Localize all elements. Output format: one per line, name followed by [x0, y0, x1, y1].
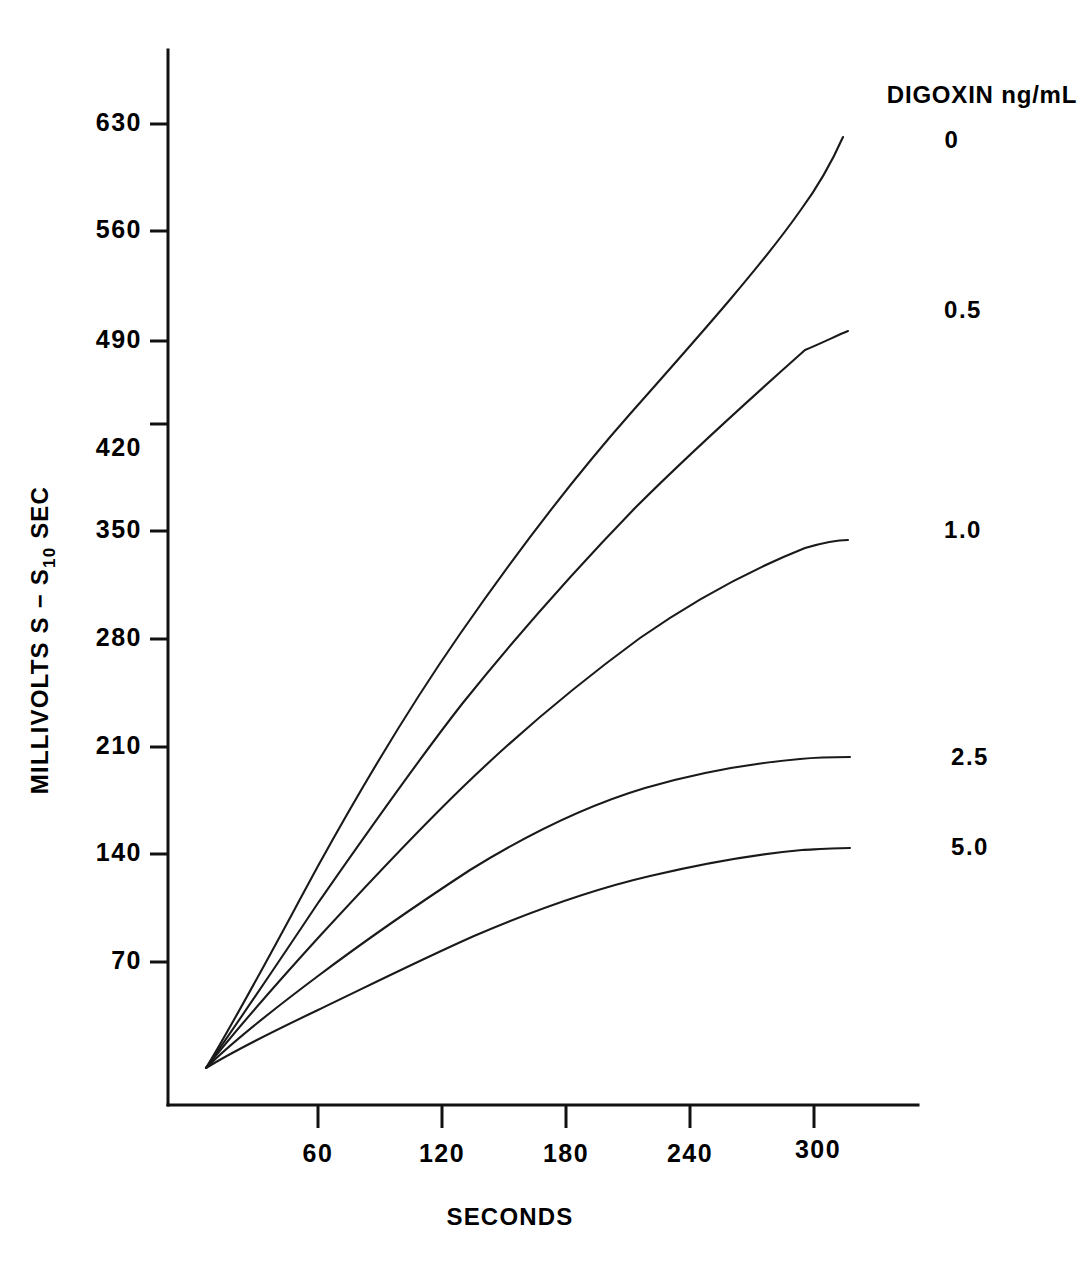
- y-tick-label: 210: [96, 731, 142, 759]
- legend-title: DIGOXIN ng/mL: [887, 81, 1077, 108]
- x-tick-label: 60: [303, 1139, 334, 1167]
- y-tick-label: 490: [96, 325, 142, 353]
- x-axis-title: SECONDS: [446, 1203, 573, 1230]
- digoxin-response-line-chart: 70 140 210 280 350 420 490 560 630 60 12…: [0, 0, 1088, 1261]
- y-tick-group: [150, 124, 168, 962]
- y-axis-title-subscript: 10: [40, 547, 59, 568]
- legend-item-1.0: 1.0: [944, 516, 982, 543]
- y-axis-title: MILLIVOLTS S − S10 SEC: [26, 486, 59, 794]
- axis-group: [168, 50, 918, 1105]
- y-tick-label: 70: [111, 946, 142, 974]
- y-tick-label: 630: [96, 108, 142, 136]
- y-axis-title-tail: SEC: [26, 486, 53, 547]
- y-axis-title-main: MILLIVOLTS S − S: [26, 568, 53, 794]
- legend-item-0.5: 0.5: [944, 296, 982, 323]
- y-tick-label: 350: [96, 515, 142, 543]
- legend-item-5.0: 5.0: [951, 833, 989, 860]
- series-line-5.0: [206, 848, 850, 1068]
- x-tick-labels: 60 120 180 240 300: [303, 1135, 842, 1167]
- y-tick-label: 280: [96, 623, 142, 651]
- series-line-0.5: [206, 331, 848, 1068]
- x-tick-label: 180: [543, 1139, 589, 1167]
- x-tick-group: [318, 1105, 814, 1128]
- y-tick-label: 140: [96, 838, 142, 866]
- legend-item-0: 0: [945, 126, 960, 153]
- series-group: [206, 137, 850, 1068]
- series-line-2.5: [206, 757, 850, 1068]
- x-tick-label: 300: [795, 1135, 841, 1163]
- chart-figure: 70 140 210 280 350 420 490 560 630 60 12…: [0, 0, 1088, 1261]
- legend-item-2.5: 2.5: [951, 743, 989, 770]
- legend: DIGOXIN ng/mL 0 0.5 1.0 2.5 5.0: [887, 81, 1077, 860]
- x-tick-label: 240: [667, 1139, 713, 1167]
- y-tick-label: 560: [96, 215, 142, 243]
- y-tick-label: 420: [96, 433, 142, 461]
- x-tick-label: 120: [419, 1139, 465, 1167]
- y-tick-labels: 70 140 210 280 350 420 490 560 630: [96, 108, 142, 974]
